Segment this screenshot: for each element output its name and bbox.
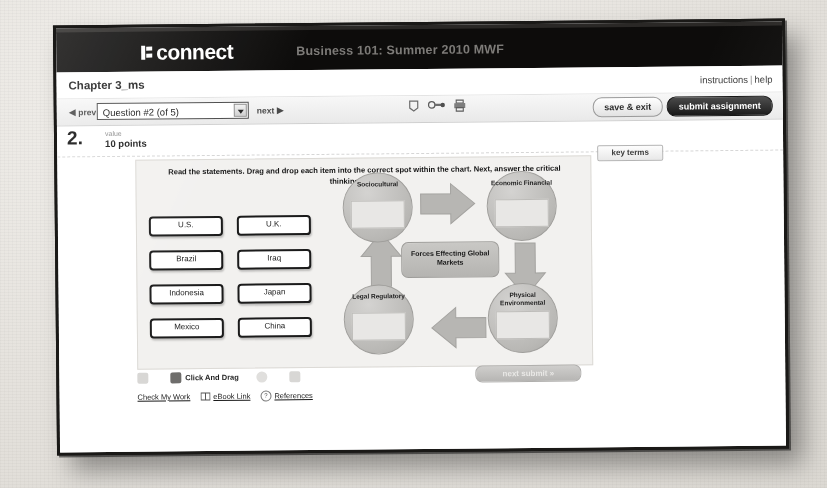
tile-column-2: U.K. Iraq Japan China <box>237 215 312 352</box>
save-and-exit-button[interactable]: save & exit <box>593 97 663 118</box>
dropzone-legal-regulatory[interactable] <box>352 312 406 341</box>
instructions-link[interactable]: instructions <box>700 74 748 85</box>
toolbar-icon-group <box>407 99 467 114</box>
bookmark-icon[interactable] <box>407 99 421 113</box>
tile-uk[interactable]: U.K. <box>237 215 311 236</box>
connect-logo-mark <box>141 46 152 60</box>
tile-iraq[interactable]: Iraq <box>237 249 311 270</box>
node-physical-environmental[interactable]: Physical Environmental <box>487 283 558 354</box>
tool-square-icon-4 <box>290 371 301 382</box>
tool-label-click-and-drag: Click And Drag <box>185 372 239 382</box>
diagram-center-label: Forces Effecting Global Markets <box>402 242 498 268</box>
browser-viewport: connect Business 101: Summer 2010 MWF Ch… <box>56 22 786 453</box>
draggable-tile-group: U.S. Brazil Indonesia Mexico U.K. Iraq J… <box>149 215 329 217</box>
dropzone-physical-environmental[interactable] <box>496 311 550 340</box>
reference-link-icon[interactable] <box>428 99 446 113</box>
help-link[interactable]: help <box>754 74 772 85</box>
tool-square-icon-1 <box>137 372 148 383</box>
next-submit-button[interactable]: next submit » <box>475 364 581 382</box>
course-title: Business 101: Summer 2010 MWF <box>296 42 504 58</box>
tile-japan[interactable]: Japan <box>237 283 311 304</box>
exercise-panel: Read the statements. Drag and drop each … <box>135 155 593 369</box>
question-number: 2. <box>67 127 83 149</box>
cycle-diagram: Sociocultural Economic Financial Legal R… <box>328 171 578 359</box>
drag-handle-icon <box>170 372 181 383</box>
app-header: connect Business 101: Summer 2010 MWF <box>56 22 782 73</box>
node-economic-financial[interactable]: Economic Financial <box>486 171 557 242</box>
question-select-value: Question #2 (of 5) <box>103 106 179 118</box>
bottom-links: Check My Work eBook Link ? References <box>137 390 312 403</box>
references-link[interactable]: References <box>274 391 312 400</box>
tile-mexico[interactable]: Mexico <box>150 318 224 339</box>
value-label: value <box>105 130 122 137</box>
node-sociocultural[interactable]: Sociocultural <box>342 172 413 243</box>
tile-china[interactable]: China <box>238 317 312 338</box>
chapter-title: Chapter 3_ms <box>68 79 144 92</box>
references-badge-icon: ? <box>260 390 271 401</box>
node-label-physical-environmental: Physical Environmental <box>491 291 555 308</box>
check-my-work-link[interactable]: Check My Work <box>137 392 190 402</box>
chevron-down-icon[interactable] <box>234 104 247 117</box>
help-links: instructions|help <box>700 74 773 86</box>
tile-column-1: U.S. Brazil Indonesia Mexico <box>149 216 224 353</box>
tool-item-4[interactable] <box>290 371 305 382</box>
tile-indonesia[interactable]: Indonesia <box>149 284 223 305</box>
tool-click-and-drag[interactable]: Click And Drag <box>170 371 239 383</box>
dropzone-sociocultural[interactable] <box>351 200 405 229</box>
monitor-screen: connect Business 101: Summer 2010 MWF Ch… <box>53 18 789 455</box>
tool-circle-icon-3 <box>257 371 268 382</box>
ebook-link-item[interactable]: eBook Link <box>200 391 250 401</box>
connect-logo: connect <box>141 40 233 65</box>
dropzone-economic-financial[interactable] <box>495 199 549 228</box>
references-item[interactable]: ? References <box>260 390 312 402</box>
tile-us[interactable]: U.S. <box>149 216 223 237</box>
question-points: 10 points <box>105 138 147 149</box>
node-label-legal-regulatory: Legal Regulatory <box>347 292 411 301</box>
ebook-icon <box>200 392 210 402</box>
ebook-link[interactable]: eBook Link <box>213 392 250 401</box>
submit-assignment-button[interactable]: submit assignment <box>667 96 773 117</box>
node-label-sociocultural: Sociocultural <box>345 180 409 189</box>
next-label: next <box>257 105 275 115</box>
question-select[interactable]: Question #2 (of 5) <box>97 102 249 120</box>
diagram-center-box: Forces Effecting Global Markets <box>401 241 499 278</box>
tile-brazil[interactable]: Brazil <box>149 250 223 271</box>
next-question-button[interactable]: next ▶ <box>257 105 284 115</box>
node-legal-regulatory[interactable]: Legal Regulatory <box>343 284 414 355</box>
prev-label: prev <box>78 107 96 117</box>
question-header: 2. value 10 points key terms <box>57 120 783 158</box>
node-label-economic-financial: Economic Financial <box>489 179 553 188</box>
exercise-tool-strip: Click And Drag next submit » <box>137 365 591 385</box>
tool-item-3[interactable] <box>257 371 272 382</box>
link-separator: | <box>750 74 753 85</box>
page-body: Chapter 3_ms instructions|help ◀ prev Qu… <box>56 66 786 453</box>
brand-text: connect <box>156 40 233 65</box>
printer-icon[interactable] <box>453 99 467 113</box>
key-terms-button[interactable]: key terms <box>597 145 663 162</box>
prev-question-button[interactable]: ◀ prev <box>69 107 96 117</box>
tool-item-1[interactable] <box>137 372 152 383</box>
